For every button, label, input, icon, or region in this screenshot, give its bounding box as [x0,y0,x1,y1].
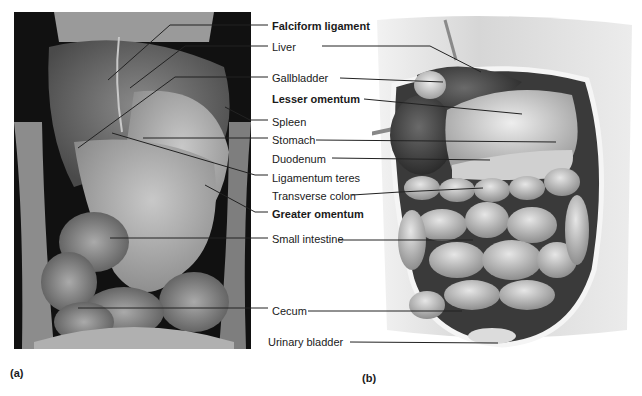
abdomen-illustration [372,0,642,370]
cadaver-photo [14,12,251,349]
label-ligamentum-teres: Ligamentum teres [272,172,360,184]
abdomen-illustration-art [372,0,642,370]
label-duodenum: Duodenum [272,153,326,165]
label-liver: Liver [272,41,296,53]
cadaver-photo-art [14,12,251,349]
panel-label-a: (a) [10,367,23,379]
label-spleen: Spleen [272,116,306,128]
label-falciform-ligament: Falciform ligament [272,20,370,32]
label-greater-omentum: Greater omentum [272,208,364,220]
label-cecum: Cecum [272,305,307,317]
label-stomach: Stomach [272,134,315,146]
label-gallbladder: Gallbladder [272,72,328,84]
label-small-intestine: Small intestine [272,233,344,245]
label-lesser-omentum: Lesser omentum [272,93,360,105]
panel-label-b: (b) [362,372,376,384]
label-transverse-colon: Transverse colon [272,190,356,202]
label-urinary-bladder: Urinary bladder [268,336,343,348]
